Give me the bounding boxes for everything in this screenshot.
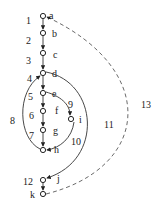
- edge-10: [47, 122, 74, 150]
- node-f: [40, 108, 45, 113]
- node-label-g: g: [53, 125, 58, 136]
- node-c: [40, 50, 45, 55]
- node-e: [40, 90, 45, 95]
- node-a: [40, 13, 45, 18]
- node-label-k: k: [30, 189, 35, 200]
- node-d: [40, 70, 45, 75]
- edge-label-9: 9: [68, 99, 73, 110]
- control-flow-graph: a b c d e f g h i j k 1 2 3 4 5 6 7 8 9 …: [0, 0, 158, 209]
- node-g: [40, 127, 45, 132]
- edge-label-12: 12: [23, 176, 33, 187]
- edge-label-8: 8: [10, 115, 15, 126]
- edge-label-10: 10: [71, 136, 81, 147]
- edge-label-4: 4: [27, 73, 32, 84]
- node-label-i: i: [79, 114, 82, 125]
- edge-label-5: 5: [28, 91, 33, 102]
- node-k: [40, 191, 45, 196]
- node-label-c: c: [53, 49, 58, 60]
- edge-label-13: 13: [141, 99, 151, 110]
- node-i: [68, 116, 73, 121]
- node-label-j: j: [56, 173, 60, 184]
- node-h: [40, 147, 45, 152]
- node-label-d: d: [52, 68, 57, 79]
- node-j: [40, 177, 45, 182]
- node-label-a: a: [49, 10, 54, 21]
- node-label-h: h: [54, 144, 59, 155]
- node-label-b: b: [52, 28, 57, 39]
- edge-label-1: 1: [26, 15, 31, 26]
- edge-label-6: 6: [29, 110, 34, 121]
- edge-label-3: 3: [26, 55, 31, 66]
- edge-label-11: 11: [104, 119, 114, 130]
- node-b: [40, 30, 45, 35]
- node-label-e: e: [52, 88, 57, 99]
- edge-label-7: 7: [29, 130, 34, 141]
- edge-label-2: 2: [26, 35, 31, 46]
- node-label-f: f: [55, 105, 59, 116]
